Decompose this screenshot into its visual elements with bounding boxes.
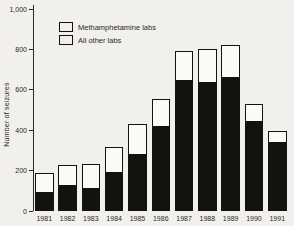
x-tick-label-1991: 1991: [262, 215, 292, 223]
bar-1981: [35, 173, 54, 211]
bar-1990-all-other-labs-segment: [246, 105, 263, 122]
legend-swatch-white: [59, 35, 73, 45]
legend: Methamphetamine labs All other labs: [59, 22, 156, 48]
bar-1983: [82, 164, 101, 211]
bar-1982: [58, 165, 77, 211]
bar-1989-all-other-labs-segment: [222, 46, 239, 78]
bar-1984-all-other-labs-segment: [106, 148, 123, 173]
bar-1990: [245, 104, 264, 211]
bar-1987-all-other-labs-segment: [176, 52, 193, 81]
y-tick: [29, 9, 33, 10]
y-tick-label: 400: [3, 127, 27, 134]
y-tick-label: 1,000: [3, 6, 27, 13]
legend-item-methamphetamine-labs: Methamphetamine labs: [59, 22, 156, 32]
y-tick-label: 200: [3, 167, 27, 174]
bar-1984: [105, 147, 124, 211]
y-tick: [29, 89, 33, 90]
legend-label: All other labs: [78, 36, 121, 45]
bar-1989: [221, 45, 240, 211]
bar-1982-all-other-labs-segment: [59, 166, 76, 186]
bar-1986: [152, 99, 171, 211]
y-tick-label: 600: [3, 86, 27, 93]
y-tick: [29, 170, 33, 171]
legend-label: Methamphetamine labs: [78, 23, 156, 32]
y-axis-title: Number of seizures: [3, 73, 10, 157]
y-tick-label: 800: [3, 46, 27, 53]
legend-swatch-black: [59, 22, 73, 32]
bar-1991-all-other-labs-segment: [269, 132, 286, 143]
legend-item-all-other-labs: All other labs: [59, 35, 156, 45]
bar-1987: [175, 51, 194, 211]
bar-1985-all-other-labs-segment: [129, 125, 146, 155]
bar-1986-all-other-labs-segment: [153, 100, 170, 127]
bar-1983-all-other-labs-segment: [83, 165, 100, 189]
bar-1988-all-other-labs-segment: [199, 50, 216, 83]
y-tick: [29, 211, 33, 212]
stacked-bar-chart: Number of seizures Methamphetamine labs …: [0, 0, 294, 226]
bar-1981-all-other-labs-segment: [36, 174, 53, 193]
bar-1985: [128, 124, 147, 211]
y-tick-label: 0: [3, 208, 27, 215]
y-tick: [29, 49, 33, 50]
bar-1988: [198, 49, 217, 211]
bar-1991: [268, 131, 287, 211]
y-tick: [29, 130, 33, 131]
